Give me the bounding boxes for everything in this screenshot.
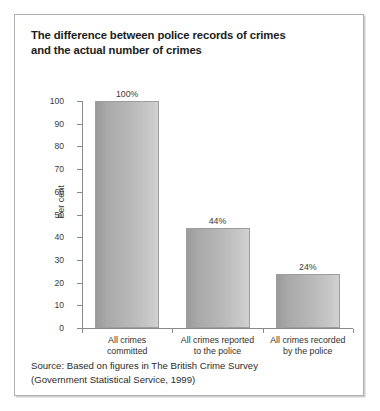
- y-tick-label: 10: [40, 301, 64, 309]
- category-label-line: to the police: [168, 346, 266, 357]
- y-tick-label: 70: [40, 165, 64, 173]
- x-tick: [82, 329, 83, 333]
- category-label: All crimescommitted: [78, 335, 176, 357]
- y-tick: [77, 192, 82, 193]
- plot-area: Per cent 0102030405060708090100 100%44%2…: [68, 101, 353, 329]
- title-line-1: The difference between police records of…: [31, 28, 349, 43]
- y-axis-title: Per cent: [56, 172, 66, 232]
- x-tick: [263, 329, 264, 333]
- category-label: All crimes reportedto the police: [168, 335, 266, 357]
- bar: [186, 228, 250, 328]
- y-tick: [77, 169, 82, 170]
- category-label-line: All crimes reported: [168, 335, 266, 346]
- x-axis-line: [82, 328, 353, 329]
- y-tick-label: 50: [40, 211, 64, 219]
- x-tick: [172, 329, 173, 333]
- y-tick-label: 80: [40, 142, 64, 150]
- y-tick-label: 30: [40, 256, 64, 264]
- title-line-2: and the actual number of crimes: [31, 43, 349, 58]
- source-note: Source: Based on figures in The British …: [31, 359, 351, 387]
- chart-frame: The difference between police records of…: [14, 14, 364, 396]
- category-label-line: All crimes: [78, 335, 176, 346]
- y-tick-label: 90: [40, 120, 64, 128]
- bar: [276, 274, 340, 328]
- category-label: All crimes recordedby the police: [259, 335, 357, 357]
- y-tick: [77, 260, 82, 261]
- y-tick: [77, 146, 82, 147]
- source-line-2: (Government Statistical Service, 1999): [31, 373, 351, 387]
- y-tick: [77, 101, 82, 102]
- y-tick-label: 40: [40, 233, 64, 241]
- bar-value-label: 100%: [97, 89, 157, 99]
- category-label-line: by the police: [259, 346, 357, 357]
- y-axis-line: [82, 101, 83, 329]
- y-tick-label: 0: [40, 324, 64, 332]
- category-label-line: All crimes recorded: [259, 335, 357, 346]
- x-tick: [353, 329, 354, 333]
- bar: [95, 101, 159, 328]
- y-tick: [77, 283, 82, 284]
- y-tick: [77, 237, 82, 238]
- y-tick: [77, 215, 82, 216]
- y-tick: [77, 124, 82, 125]
- source-line-1: Source: Based on figures in The British …: [31, 359, 351, 373]
- bar-value-label: 44%: [188, 216, 248, 226]
- y-tick-label: 60: [40, 188, 64, 196]
- category-label-line: committed: [78, 346, 176, 357]
- y-tick-label: 20: [40, 279, 64, 287]
- bar-value-label: 24%: [278, 262, 338, 272]
- y-tick: [77, 305, 82, 306]
- page-title: The difference between police records of…: [31, 28, 349, 58]
- y-tick-label: 100: [40, 97, 64, 105]
